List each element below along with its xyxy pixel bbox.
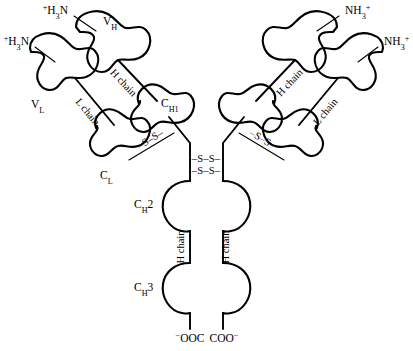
label-h-chain-stem-left: H chain [175,230,186,264]
heavy-chain-c-terminus-left: −OOC [176,331,205,345]
hinge-disulfide-upper-label: –S–S– [191,153,221,164]
label-h-chain-stem-right: H chain [220,230,231,264]
hinge-disulfide-lower-label: –S–S– [191,165,221,176]
hinge-disulfide-bonds: –S–S– –S–S– [191,153,221,176]
antibody-diagram: –S–S– –S–S– –S–S– –S–S– +H3N +H3N NH3+ [0,0,413,351]
antibody-structure-svg: –S–S– –S–S– –S–S– –S–S– +H3N +H3N NH3+ [0,0,413,351]
